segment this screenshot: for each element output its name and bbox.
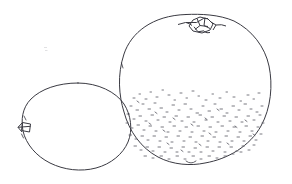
orange-contour-nick — [122, 63, 124, 68]
lemon-edge-scratch-lower — [22, 134, 24, 138]
drawing-canvas: Lemon and Orange lemon orange stippled r… — [0, 0, 292, 184]
lemon-stem-nub-icon — [18, 123, 31, 133]
line-drawing — [0, 0, 292, 184]
lemon-fruit — [18, 83, 131, 170]
orange-fruit — [119, 14, 270, 164]
orange-calyx-icon — [178, 17, 226, 33]
orange-bottom-dimple — [186, 161, 196, 163]
lemon-edge-scratch — [24, 116, 26, 120]
background-speck — [44, 48, 48, 51]
lemon-outline — [22, 83, 131, 170]
